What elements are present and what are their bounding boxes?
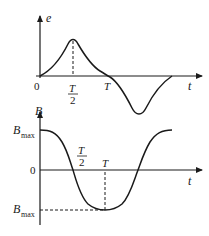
e-t-axis-label: t xyxy=(188,79,192,93)
B-origin-label: 0 xyxy=(30,164,36,176)
e-tick-T-label: T xyxy=(104,80,111,92)
e-origin-label: 0 xyxy=(34,80,40,92)
Bmax-label-main: B xyxy=(13,123,21,137)
B-tick-half-denominator: 2 xyxy=(79,156,85,168)
Bmin-label-main: B xyxy=(13,202,21,216)
e-and-B-vs-time-diagram: e 0 T 2 T t B B max 0 B max T 2 T t xyxy=(0,0,209,236)
B-axis-label: B xyxy=(35,104,43,118)
bottom-graph-B: B B max 0 B max T 2 T t xyxy=(13,104,202,225)
top-graph-e: e 0 T 2 T t xyxy=(34,11,202,114)
B-t-axis-label: t xyxy=(188,174,192,188)
Bmax-label-sub: max xyxy=(21,131,35,140)
B-tick-half-numerator: T xyxy=(78,144,85,156)
e-tick-half-denominator: 2 xyxy=(70,94,76,106)
e-tick-half-numerator: T xyxy=(69,82,76,94)
e-axis-label: e xyxy=(46,11,52,25)
e-curve xyxy=(40,40,172,115)
Bmin-label-sub: max xyxy=(21,210,35,219)
B-tick-T-label: T xyxy=(102,157,109,169)
